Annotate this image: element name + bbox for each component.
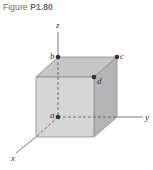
point-d	[92, 75, 97, 80]
z-axis-label: z	[55, 20, 60, 30]
point-d-label: d	[97, 76, 102, 86]
point-a	[56, 115, 61, 120]
cube-diagram: z y x a b c d	[0, 0, 153, 170]
point-c-label: c	[120, 51, 124, 61]
point-a-label: a	[50, 110, 55, 120]
point-b-label: b	[50, 51, 55, 61]
point-c	[115, 55, 120, 60]
point-b	[56, 55, 61, 60]
x-axis	[16, 137, 36, 153]
y-axis-label: y	[144, 112, 149, 122]
front-face	[36, 77, 94, 137]
x-axis-label: x	[10, 153, 15, 163]
